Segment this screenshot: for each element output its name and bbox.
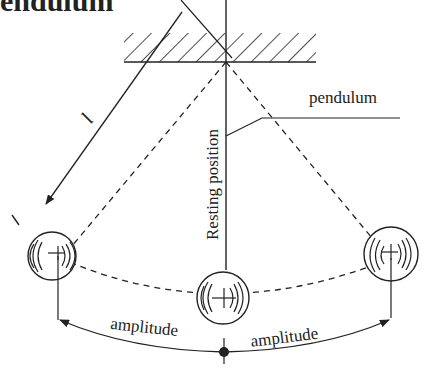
left-bob — [28, 232, 76, 280]
center-bob — [197, 270, 249, 324]
pendulum-label: pendulum — [309, 88, 377, 107]
amplitude-label-left: amplitude — [110, 314, 180, 340]
amplitude-label-right: amplitude — [249, 324, 319, 351]
pendulum-diagram: l pendulum Resting position ampl — [0, 0, 432, 368]
pendulum-leader-line — [226, 118, 400, 136]
equilibrium-point — [219, 347, 229, 357]
length-label: l — [76, 109, 97, 127]
ceiling-support — [124, 33, 316, 62]
resting-position-label: Resting position — [203, 129, 222, 240]
